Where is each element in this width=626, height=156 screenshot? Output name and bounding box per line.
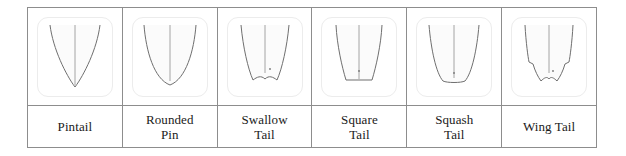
pintail-outline-icon: [44, 23, 106, 91]
tail-label-cell-pintail: Pintail: [28, 106, 123, 148]
squash-tail-outline-icon: [423, 23, 485, 91]
tail-image-row: [28, 8, 597, 106]
fin-dot: [269, 68, 271, 70]
thumb-cell-inner: [502, 8, 596, 105]
tail-label-row: Pintail Rounded Pin Swallow Tail Square …: [28, 106, 597, 148]
tail-image-cell-wing-tail: [502, 8, 597, 106]
swallow-tail-outline-icon: [234, 23, 296, 91]
thumb-cell-inner: [28, 8, 122, 105]
thumbnail-frame-pintail: [37, 17, 113, 97]
tail-label-cell-wing-tail: Wing Tail: [502, 106, 597, 148]
tail-image-cell-pintail: [28, 8, 123, 106]
square-tail-outline-icon: [328, 23, 390, 91]
wing-tail-outline-icon: [518, 23, 580, 91]
thumbnail-frame-square-tail: [321, 17, 397, 97]
tail-label-cell-squash-tail: Squash Tail: [407, 106, 502, 148]
tail-label-square-tail: Square Tail: [312, 112, 406, 142]
tail-label-wing-tail: Wing Tail: [502, 119, 596, 134]
tail-label-squash-tail: Squash Tail: [407, 112, 501, 142]
tail-image-cell-swallow-tail: [217, 8, 312, 106]
tail-label-cell-rounded-pin: Rounded Pin: [122, 106, 217, 148]
tail-label-cell-square-tail: Square Tail: [312, 106, 407, 148]
thumbnail-frame-squash-tail: [416, 17, 492, 97]
thumb-cell-inner: [123, 8, 217, 105]
tail-image-cell-rounded-pin: [122, 8, 217, 106]
tail-label-swallow-tail: Swallow Tail: [218, 112, 312, 142]
thumbnail-frame-rounded-pin: [132, 17, 208, 97]
fin-dot: [358, 70, 360, 72]
thumbnail-frame-wing-tail: [511, 17, 587, 97]
tail-image-cell-square-tail: [312, 8, 407, 106]
thumb-cell-inner: [312, 8, 406, 105]
tail-shapes-table: Pintail Rounded Pin Swallow Tail Square …: [27, 7, 597, 148]
fin-dot: [552, 70, 554, 72]
tail-label-rounded-pin: Rounded Pin: [123, 112, 217, 142]
thumbnail-frame-swallow-tail: [227, 17, 303, 97]
surfboard-tail-shapes-figure: Pintail Rounded Pin Swallow Tail Square …: [0, 0, 626, 156]
tail-label-pintail: Pintail: [28, 119, 122, 134]
thumb-cell-inner: [407, 8, 501, 105]
rounded-pin-outline-icon: [139, 23, 201, 91]
thumb-cell-inner: [218, 8, 312, 105]
tail-label-cell-swallow-tail: Swallow Tail: [217, 106, 312, 148]
tail-image-cell-squash-tail: [407, 8, 502, 106]
fin-dot: [453, 72, 455, 74]
